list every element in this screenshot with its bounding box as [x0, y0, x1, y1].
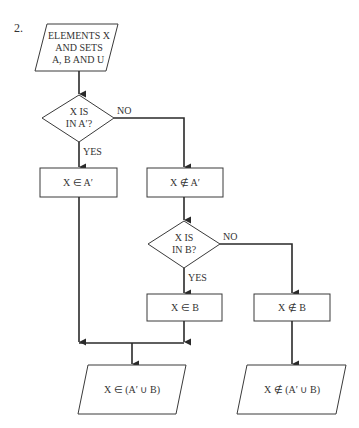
- not-in-a-prime-label: X ∉ A′: [170, 177, 200, 188]
- in-b-node: X ∈ B: [147, 294, 222, 321]
- output-not-in-union-node: X ∉ (A′ ∪ B): [237, 365, 346, 414]
- output-in-union-node: X ∈ (A′ ∪ B): [78, 365, 186, 414]
- output-not-in-union-label: X ∉ (A′ ∪ B): [264, 384, 320, 396]
- decision-b-yes-label: YES: [188, 272, 207, 283]
- input-node: ELEMENTS X AND SETS A, B AND U: [35, 24, 118, 71]
- in-a-prime-node: X ∈ A′: [40, 168, 117, 197]
- input-line-2: AND SETS: [55, 42, 103, 53]
- not-in-b-label: X ∉ B: [278, 302, 306, 313]
- not-in-a-prime-node: X ∉ A′: [147, 168, 223, 197]
- decision-a-no-label: NO: [117, 105, 131, 116]
- flowchart: 2. ELEMENTS X AND SETS A, B AND U X IS I…: [0, 0, 359, 428]
- not-in-b-node: X ∉ B: [254, 294, 330, 321]
- in-a-prime-label: X ∈ A′: [63, 177, 93, 188]
- decision-b-no-label: NO: [223, 231, 237, 242]
- decision-a-line-2: IN A′?: [66, 118, 93, 129]
- edge-decision-b-no: [220, 244, 292, 293]
- output-in-union-label: X ∈ (A′ ∪ B): [104, 384, 160, 396]
- decision-a-node: X IS IN A′?: [42, 95, 114, 142]
- figure-number: 2.: [14, 21, 23, 35]
- decision-a-line-1: X IS: [70, 106, 89, 117]
- decision-b-line-2: IN B?: [172, 244, 197, 255]
- edge-decision-a-no: [114, 118, 184, 167]
- input-line-1: ELEMENTS X: [48, 30, 111, 41]
- in-b-label: X ∈ B: [171, 302, 199, 313]
- decision-b-line-1: X IS: [175, 232, 194, 243]
- decision-a-yes-label: YES: [83, 146, 102, 157]
- decision-b-node: X IS IN B?: [148, 221, 220, 268]
- input-line-3: A, B AND U: [52, 54, 105, 65]
